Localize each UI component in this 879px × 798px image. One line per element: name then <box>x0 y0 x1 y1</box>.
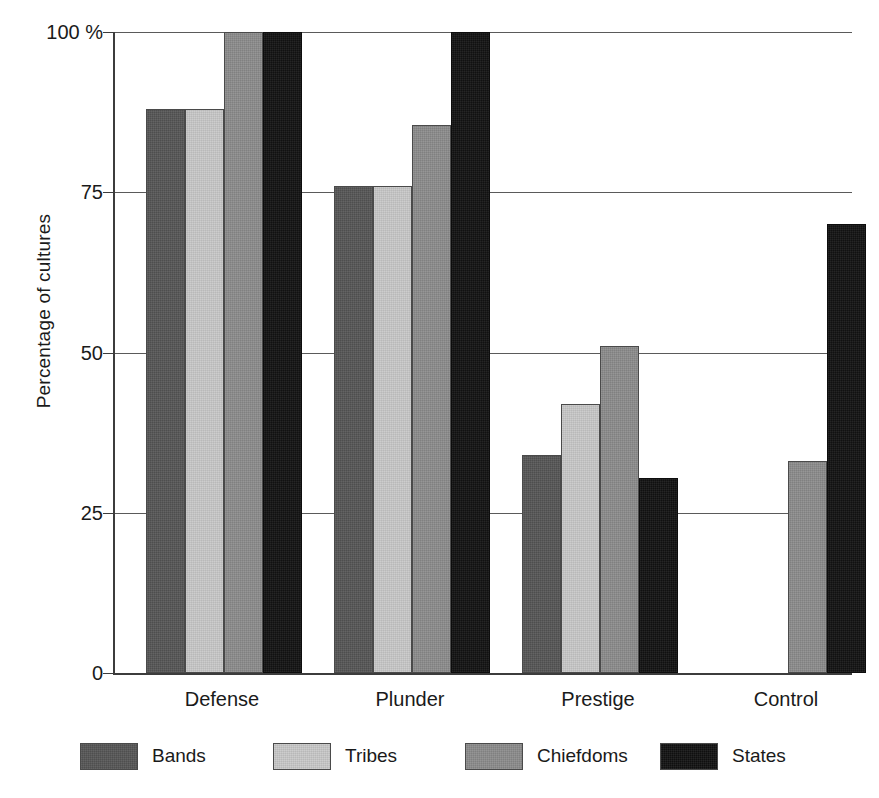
bar-defense-states <box>263 32 302 673</box>
x-axis-label-plunder: Plunder <box>376 688 445 711</box>
bar-control-states <box>827 224 866 673</box>
y-tick-0 <box>103 673 115 674</box>
y-tick-25 <box>103 513 115 514</box>
legend-swatch-chiefdoms <box>465 743 523 770</box>
bar-plunder-tribes <box>373 186 412 673</box>
legend-item-bands[interactable]: Bands <box>80 743 206 770</box>
legend-label-chiefdoms: Chiefdoms <box>537 745 628 767</box>
y-axis-title: Percentage of cultures <box>33 171 55 451</box>
legend-label-tribes: Tribes <box>345 745 397 767</box>
bar-prestige-chiefdoms <box>600 346 639 673</box>
x-axis-label-control: Control <box>754 688 818 711</box>
plot-area: 0255075100 % <box>113 32 852 675</box>
bar-chart: Percentage of cultures 0255075100 % Defe… <box>0 0 879 798</box>
legend-swatch-states <box>660 743 718 770</box>
y-tick-75 <box>103 192 115 193</box>
y-tick-label: 25 <box>81 501 103 524</box>
legend-swatch-bands <box>80 743 138 770</box>
y-tick-100 <box>103 32 115 33</box>
legend-item-states[interactable]: States <box>660 743 786 770</box>
y-tick-label: 50 <box>81 341 103 364</box>
legend-item-chiefdoms[interactable]: Chiefdoms <box>465 743 628 770</box>
y-tick-label: 0 <box>92 662 103 685</box>
legend-swatch-tribes <box>273 743 331 770</box>
bar-plunder-states <box>451 32 490 673</box>
y-tick-label: 100 % <box>46 21 103 44</box>
legend-label-states: States <box>732 745 786 767</box>
bar-control-chiefdoms <box>788 461 827 673</box>
y-tick-50 <box>103 353 115 354</box>
legend-label-bands: Bands <box>152 745 206 767</box>
bar-prestige-bands <box>522 455 561 673</box>
bar-defense-chiefdoms <box>224 32 263 673</box>
x-axis-label-defense: Defense <box>185 688 260 711</box>
bar-defense-bands <box>146 109 185 673</box>
legend-item-tribes[interactable]: Tribes <box>273 743 397 770</box>
y-tick-label: 75 <box>81 181 103 204</box>
chart-legend: BandsTribesChiefdomsStates <box>80 736 840 776</box>
x-axis-label-prestige: Prestige <box>561 688 634 711</box>
bar-plunder-bands <box>334 186 373 673</box>
bar-defense-tribes <box>185 109 224 673</box>
bar-plunder-chiefdoms <box>412 125 451 673</box>
bar-prestige-states <box>639 478 678 674</box>
bar-prestige-tribes <box>561 404 600 673</box>
